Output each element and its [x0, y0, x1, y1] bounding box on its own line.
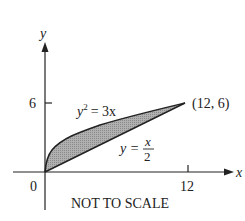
- y-axis-label: y: [38, 26, 47, 41]
- intersection-label: (12, 6): [192, 96, 230, 112]
- x-axis-label: x: [235, 165, 243, 180]
- y-axis-arrow-icon: [42, 42, 49, 52]
- line-equation-denominator: 2: [144, 149, 151, 164]
- caption: NOT TO SCALE: [71, 196, 169, 211]
- parabola-equation: y2= 3x: [75, 102, 116, 119]
- x-tick-label: 12: [180, 179, 194, 194]
- y-tick-label: 6: [29, 96, 36, 111]
- line-equation-lhs: y =: [118, 141, 139, 156]
- origin-label: 0: [30, 179, 37, 194]
- x-axis-arrow-icon: [224, 169, 234, 176]
- diagram: y x 6 0 12 y2= 3x y = x 2 (12, 6) NOT TO…: [0, 0, 245, 221]
- line-equation-numerator: x: [144, 134, 151, 149]
